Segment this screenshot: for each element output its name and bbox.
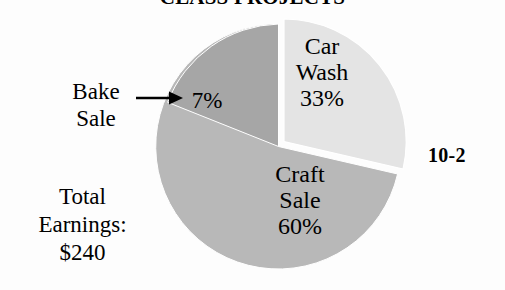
- page-title: CLASS PROJECTS: [0, 0, 505, 8]
- lesson-number-marker: 10-2: [428, 144, 466, 167]
- worksheet-pie-chart-figure: CLASS PROJECTS Car Wash 33% 7% Craft Sal…: [0, 0, 505, 290]
- total-earnings-amount: $240: [10, 239, 155, 267]
- slice-label-car-wash: Car Wash 33%: [262, 33, 382, 111]
- slice-label-bake-sale-percent: 7%: [178, 88, 236, 113]
- right-arrow-icon: [136, 90, 184, 106]
- bake-callout-line-1: Bake: [56, 78, 136, 105]
- total-earnings-line-2: Earnings:: [10, 211, 155, 239]
- car-wash-line-1: Car: [262, 33, 382, 59]
- bake-sale-callout-label: Bake Sale: [56, 78, 136, 132]
- car-wash-line-2: Wash: [262, 59, 382, 85]
- craft-sale-percent: 60%: [240, 213, 360, 239]
- total-earnings-line-1: Total: [10, 183, 155, 211]
- craft-sale-line-2: Sale: [240, 187, 360, 213]
- craft-sale-line-1: Craft: [240, 161, 360, 187]
- car-wash-percent: 33%: [262, 85, 382, 111]
- total-earnings-label: Total Earnings: $240: [10, 183, 155, 267]
- bake-callout-line-2: Sale: [56, 105, 136, 132]
- slice-label-craft-sale: Craft Sale 60%: [240, 161, 360, 239]
